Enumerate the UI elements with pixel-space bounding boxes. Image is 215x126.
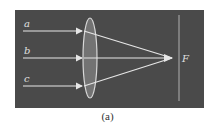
figure-caption: (a) [0,110,215,122]
ray-label-a: a [24,18,30,29]
diagram-canvas: a b c F [0,0,215,126]
lens-focus-diagram: a b c F (a) [0,0,215,126]
focal-point-label: F [181,53,190,64]
diagram-background [15,10,204,108]
ray-label-b: b [24,45,30,56]
ray-label-c: c [24,73,30,84]
